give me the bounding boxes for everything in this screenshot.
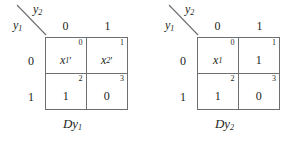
kmap-cell: 3 0: [239, 74, 280, 110]
axis-label-rows: y1: [13, 18, 22, 33]
axis-label-columns: y2: [33, 2, 42, 17]
cell-minterm-index: 2: [79, 74, 83, 84]
figure-caption: Dy1: [0, 116, 145, 132]
row-header-1: 1: [22, 90, 40, 105]
cell-value: x2′: [87, 48, 128, 73]
cell-minterm-index: 0: [231, 38, 235, 48]
kmap-cell: 1 1: [239, 38, 280, 74]
figure-caption: Dy2: [152, 116, 297, 132]
cell-minterm-index: 3: [272, 74, 276, 84]
row-header-1: 1: [174, 90, 192, 105]
kmap-cell: 0 x1′: [46, 38, 87, 74]
cell-minterm-index: 1: [120, 38, 124, 48]
karnaugh-grid: 0 x1 1 1 2 1 3 0: [197, 37, 280, 110]
cell-value: 0: [87, 84, 128, 110]
cell-minterm-index: 2: [231, 74, 235, 84]
cell-value: 1: [198, 84, 238, 110]
kmap-cell: 3 0: [87, 74, 128, 110]
cell-value: 1: [239, 48, 280, 73]
kmap-figure-dy1: y2 y1 0 1 0 1 0 x1′ 1 x2′ 2 1 3 0 Dy1: [0, 0, 150, 144]
karnaugh-grid: 0 x1′ 1 x2′ 2 1 3 0: [45, 37, 128, 110]
column-header-0: 0: [45, 19, 86, 34]
kmap-cell: 2 1: [46, 74, 87, 110]
kmap-figure-dy2: y2 y1 0 1 0 1 0 x1 1 1 2 1 3 0 Dy2: [152, 0, 301, 144]
cell-value: x1: [198, 48, 238, 73]
cell-minterm-index: 3: [120, 74, 124, 84]
cell-minterm-index: 0: [79, 38, 83, 48]
kmap-cell: 0 x1: [198, 38, 239, 74]
cell-minterm-index: 1: [272, 38, 276, 48]
axis-label-columns: y2: [185, 2, 194, 17]
column-header-1: 1: [87, 19, 128, 34]
kmap-cell: 2 1: [198, 74, 239, 110]
cell-value: 1: [46, 84, 86, 110]
kmap-cell: 1 x2′: [87, 38, 128, 74]
cell-value: x1′: [46, 48, 86, 73]
column-header-0: 0: [197, 19, 238, 34]
column-header-1: 1: [239, 19, 280, 34]
row-header-0: 0: [22, 54, 40, 69]
cell-value: 0: [239, 84, 280, 110]
axis-label-rows: y1: [165, 18, 174, 33]
row-header-0: 0: [174, 54, 192, 69]
